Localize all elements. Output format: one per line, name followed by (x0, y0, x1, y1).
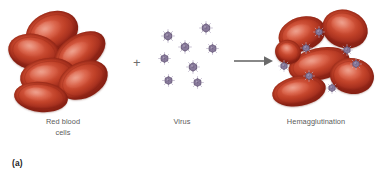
virus-particle (199, 21, 213, 35)
virus-particle (158, 52, 171, 65)
virus-particle (326, 82, 338, 94)
virus-particle (191, 76, 204, 89)
virus-particle (278, 60, 290, 72)
label-virus: Virus (152, 117, 212, 128)
virus-particle (186, 60, 200, 74)
panel-caption: (a) (12, 158, 23, 168)
virus-particle (300, 42, 312, 54)
arrow-right-icon (234, 54, 274, 72)
virus-particle (303, 70, 315, 82)
label-red-blood-cells: Red blood cells (22, 117, 104, 138)
hemagglutination-figure: + Red blood cells Virus Hemagglutination… (0, 0, 379, 186)
plus-icon: + (133, 56, 141, 69)
virus-particle (341, 44, 353, 56)
virus-particle (206, 42, 219, 55)
virus-particle (350, 58, 362, 70)
virus-particle (313, 26, 325, 38)
virus-particle (161, 29, 175, 43)
virus-particle (162, 74, 175, 87)
virus-particle (178, 40, 192, 54)
label-hemagglutination: Hemagglutination (258, 117, 374, 128)
